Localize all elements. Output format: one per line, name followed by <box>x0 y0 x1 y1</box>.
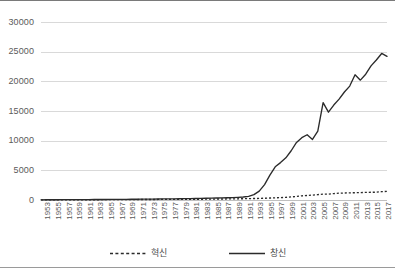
y-tick-label: 15000 <box>8 107 34 116</box>
x-tick-label: 1991 <box>247 202 255 220</box>
x-tick-label: 2011 <box>353 202 361 219</box>
y-axis-labels: 050001000015000200002500030000 <box>0 1 38 200</box>
x-tick-label: 1963 <box>97 202 105 220</box>
x-tick-label: 2003 <box>310 202 318 220</box>
x-tick-label: 2001 <box>300 202 308 220</box>
x-tick-label: 1957 <box>66 202 74 220</box>
y-tick-label: 0 <box>29 196 34 205</box>
x-tick-label: 2007 <box>332 202 340 220</box>
y-tick-label: 5000 <box>14 166 34 175</box>
x-tick-label: 1989 <box>236 202 244 220</box>
series-line-solid <box>41 53 387 199</box>
x-tick-label: 1999 <box>289 202 297 220</box>
x-tick-label: 1997 <box>278 202 286 220</box>
x-tick-label: 1995 <box>268 202 276 220</box>
chart-container: 050001000015000200002500030000 195319551… <box>0 0 395 268</box>
y-tick-label: 30000 <box>8 18 34 27</box>
x-tick-label: 1975 <box>161 202 169 220</box>
x-tick-label: 1967 <box>119 202 127 220</box>
x-tick-label: 1959 <box>76 202 84 220</box>
legend-item-solid[interactable]: 창신 <box>229 249 286 258</box>
legend-solid-line-icon <box>229 249 265 258</box>
x-tick-label: 1979 <box>183 202 191 220</box>
x-tick-label: 1969 <box>129 202 137 220</box>
x-tick-label: 2013 <box>364 202 372 220</box>
x-tick-label: 2005 <box>321 202 329 220</box>
legend-item-dashed[interactable]: 혁신 <box>110 249 167 258</box>
x-tick-label: 1993 <box>257 202 265 220</box>
legend-dashed-line-icon <box>110 249 146 258</box>
x-tick-label: 1971 <box>140 202 148 220</box>
x-tick-label: 1985 <box>215 202 223 220</box>
x-tick-label: 1977 <box>172 202 180 220</box>
y-tick-label: 20000 <box>8 77 34 86</box>
x-tick-label: 1973 <box>151 202 159 220</box>
x-tick-label: 1955 <box>55 202 63 220</box>
x-axis-labels: 1953195519571959196119631965196719691971… <box>41 202 387 242</box>
legend-label-dashed: 혁신 <box>151 249 167 258</box>
legend-label-solid: 창신 <box>270 249 286 258</box>
plot-area <box>41 22 387 200</box>
x-tick-label: 1987 <box>225 202 233 220</box>
x-tick-label: 1981 <box>193 202 201 220</box>
x-tick-label: 1961 <box>87 202 95 220</box>
x-tick-label: 2009 <box>342 202 350 220</box>
x-tick-label: 1983 <box>204 202 212 220</box>
y-tick-label: 10000 <box>8 136 34 145</box>
y-tick-label: 25000 <box>8 47 34 56</box>
x-tick-label: 1953 <box>44 202 52 220</box>
chart-legend: 혁신 창신 <box>0 244 395 262</box>
x-tick-label: 2017 <box>385 202 393 220</box>
series-layer <box>41 22 387 200</box>
x-tick-label: 2015 <box>374 202 382 220</box>
x-tick-label: 1965 <box>108 202 116 220</box>
